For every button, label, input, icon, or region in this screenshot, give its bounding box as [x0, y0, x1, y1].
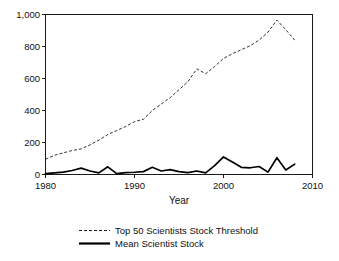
x-tick-label-2000: 2000	[213, 180, 234, 191]
chart-figure: 1,000 800 600 400 200 0 1980 1990 2000 2…	[0, 0, 339, 261]
x-tick-label-2010: 2010	[302, 180, 323, 191]
plot-frame	[46, 15, 313, 175]
y-tick-label-600: 600	[24, 73, 40, 84]
legend-item-top-50-scientists-stock-threshold: Top 50 Scientists Stock Threshold	[79, 225, 258, 236]
line-chart: 1,000 800 600 400 200 0 1980 1990 2000 2…	[0, 0, 339, 261]
legend-item-mean-scientist-stock: Mean Scientist Stock	[79, 238, 204, 249]
y-axis-ticks: 1,000 800 600 400 200 0	[16, 9, 45, 180]
legend-label-mean-scientist-stock: Mean Scientist Stock	[115, 238, 204, 249]
y-tick-label-800: 800	[24, 41, 40, 52]
legend-label-top-50-scientists-stock-threshold: Top 50 Scientists Stock Threshold	[115, 225, 258, 236]
x-tick-label-1990: 1990	[124, 180, 145, 191]
x-axis-ticks: 1980 1990 2000 2010	[35, 175, 323, 192]
series-line-top-50-scientists-stock-threshold	[46, 20, 295, 159]
y-tick-label-0: 0	[35, 169, 40, 180]
x-tick-label-1980: 1980	[35, 180, 56, 191]
y-tick-label-1000: 1,000	[16, 9, 40, 20]
chart-legend: Top 50 Scientists Stock Threshold Mean S…	[79, 225, 258, 249]
y-tick-label-200: 200	[24, 137, 40, 148]
y-tick-label-400: 400	[24, 105, 40, 116]
series-line-mean-scientist-stock	[46, 157, 295, 174]
x-axis-title: Year	[169, 195, 190, 206]
